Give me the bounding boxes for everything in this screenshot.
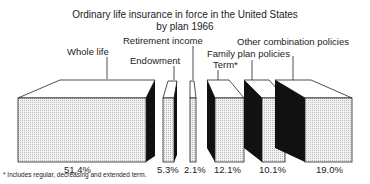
label-family: Family plan policies [207, 48, 290, 59]
label-term: Term* [213, 59, 238, 70]
label-other: Other combination policies [237, 36, 349, 47]
label-endowment: Endowment [130, 55, 180, 66]
label-whole-life: Whole life [67, 46, 109, 57]
label-retirement: Retirement income [123, 35, 203, 46]
pct-endowment: 5.3% [157, 164, 179, 175]
pct-family: 10.1% [259, 164, 286, 175]
block-chart [0, 0, 370, 184]
pct-retirement: 2.1% [184, 164, 206, 175]
pct-term: 12.1% [214, 164, 241, 175]
block-whole-life [18, 80, 155, 162]
footnote: * Includes regular, decreasing and exten… [3, 171, 146, 178]
pct-other: 19.0% [316, 164, 343, 175]
block-endowment [163, 81, 177, 162]
block-term [207, 80, 244, 162]
block-other [275, 80, 352, 162]
block-retirement [190, 81, 196, 162]
